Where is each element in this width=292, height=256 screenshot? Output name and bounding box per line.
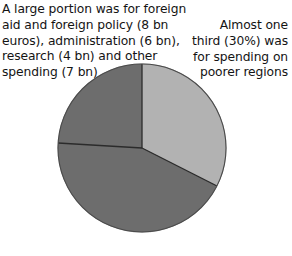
pie-svg — [52, 57, 234, 241]
pie-slice-foreign-admin-research — [58, 64, 142, 148]
pie-chart-figure: A large portion was for foreign aid and … — [0, 0, 292, 256]
pie-chart-graphic — [52, 57, 234, 241]
